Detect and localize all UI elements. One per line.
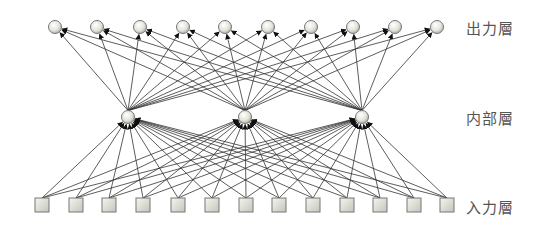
connection-line (364, 124, 380, 198)
connection-line (42, 120, 238, 198)
input-node (239, 198, 253, 212)
output-node (305, 21, 318, 34)
input-layer-label: 入力層 (466, 196, 514, 217)
input-node (102, 198, 116, 212)
input-node (407, 198, 421, 212)
output-node (134, 21, 147, 34)
output-node (431, 21, 444, 34)
input-node (69, 198, 83, 212)
output-node (389, 21, 402, 34)
output-node (91, 21, 104, 34)
input-hidden-connections (42, 119, 447, 198)
connection-line (109, 124, 126, 198)
input-node (136, 198, 150, 212)
connection-line (178, 120, 355, 198)
hidden-layer-nodes (122, 111, 369, 124)
connection-line (231, 31, 362, 111)
hidden-node (356, 111, 369, 124)
input-layer-nodes (35, 198, 454, 212)
hidden-layer-label: 内部層 (466, 107, 514, 128)
input-node (35, 198, 49, 212)
connection-line (42, 119, 355, 198)
connection-line (128, 32, 219, 111)
connection-line (245, 124, 246, 198)
connection-line (129, 124, 143, 198)
output-node (262, 21, 275, 34)
connection-line (362, 34, 392, 111)
input-node (205, 198, 219, 212)
connection-line (104, 29, 362, 110)
connection-line (62, 30, 245, 110)
connection-line (135, 120, 313, 198)
input-node (373, 198, 387, 212)
connection-line (109, 119, 355, 198)
connection-line (367, 122, 447, 198)
hidden-output-connections (60, 29, 432, 111)
connection-line (212, 124, 242, 198)
output-layer-label: 出力層 (466, 17, 514, 38)
connection-line (245, 32, 347, 111)
connection-line (42, 122, 123, 198)
hidden-node (122, 111, 135, 124)
output-node (347, 21, 360, 34)
output-node (177, 21, 190, 34)
input-node (171, 198, 185, 212)
input-node (272, 198, 286, 212)
input-node (340, 198, 354, 212)
connection-line (128, 30, 346, 111)
input-node (306, 198, 320, 212)
connection-line (347, 124, 361, 198)
hidden-node (239, 111, 252, 124)
output-layer-nodes (49, 21, 444, 34)
output-node (219, 21, 232, 34)
connection-line (104, 31, 245, 111)
input-node (440, 198, 454, 212)
connection-line (62, 29, 362, 111)
output-node (49, 21, 62, 34)
